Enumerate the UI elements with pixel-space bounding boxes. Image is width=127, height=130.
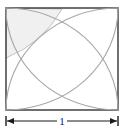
figure-canvas: 1: [0, 0, 127, 130]
shaded-lens-path: [6, 8, 62, 58]
arrow-right-icon: [110, 118, 117, 124]
dimension-label: 1: [59, 115, 65, 127]
shaded-region-group: [6, 8, 62, 62]
arrow-left-icon: [7, 118, 14, 124]
geometry-figure: 1: [0, 0, 127, 130]
dimension-line-group: 1: [6, 115, 118, 127]
